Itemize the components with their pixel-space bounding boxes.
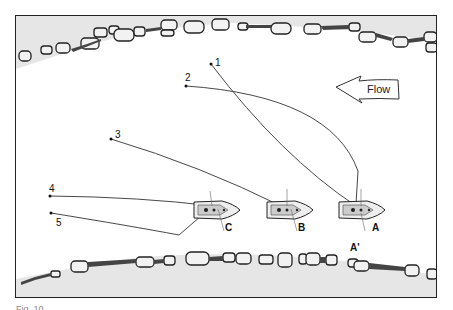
line-5 [51, 213, 201, 235]
line-label-4: 4 [49, 183, 55, 194]
river-diagram: Flow 1 2 3 4 5 [16, 16, 436, 297]
line-label-3: 3 [115, 129, 121, 140]
line-start-dots [49, 63, 213, 215]
line-3 [111, 139, 283, 207]
boat-c-icon [194, 191, 240, 231]
figure-caption: Fig. 10 ... [16, 301, 54, 310]
boat-label-c: C [225, 222, 232, 233]
boat-label-b: B [298, 222, 305, 233]
line-4 [50, 196, 213, 206]
boat-label-a: A [372, 222, 379, 233]
line-label-2: 2 [185, 72, 191, 83]
flow-arrow-icon: Flow [336, 76, 399, 103]
line-label-5: 5 [56, 217, 62, 228]
diagram-frame: Flow 1 2 3 4 5 [15, 15, 437, 298]
line-2 [186, 86, 358, 204]
line-label-1: 1 [215, 57, 221, 68]
boat-b-icon [267, 189, 313, 231]
flow-label: Flow [367, 83, 390, 95]
point-label-a-prime: A' [350, 242, 360, 253]
